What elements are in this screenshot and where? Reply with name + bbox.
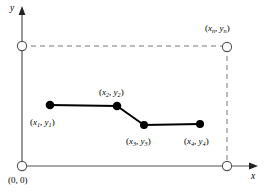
data-point-4-marker[interactable] <box>196 120 204 128</box>
data-polyline <box>50 105 200 125</box>
coordinate-plane-figure: y x (0, 0) (x1, y1) (x2, y2) (x3, y3) (x… <box>0 0 266 195</box>
comma-p1: , <box>40 117 42 127</box>
sub-x-pn: n <box>212 27 215 34</box>
open-circle-x-intercept[interactable] <box>222 161 231 170</box>
y-axis-arrowhead <box>19 6 26 15</box>
var-y-p2: y <box>114 87 118 97</box>
data-point-4-label: (x4, y4) <box>184 137 209 146</box>
comma-p4: , <box>194 136 196 146</box>
origin-label: (0, 0) <box>8 176 28 185</box>
sub-x-p1: 1 <box>37 121 40 128</box>
data-point-3-marker[interactable] <box>140 121 148 129</box>
sub-y-p1: 1 <box>49 121 52 128</box>
var-y-p1: y <box>45 117 49 127</box>
x-axis-arrowhead <box>249 163 258 170</box>
data-point-2-label: (x2, y2) <box>99 88 124 97</box>
comma-p2: , <box>109 87 111 97</box>
sub-y-pn: n <box>224 27 227 34</box>
var-y-p4: y <box>199 136 203 146</box>
y-axis-label: y <box>10 4 14 14</box>
x-axis-label: x <box>251 172 255 182</box>
data-point-1-label: (x1, y1) <box>30 118 55 127</box>
var-y-p3: y <box>141 136 145 146</box>
comma-pn: , <box>215 23 217 33</box>
data-point-1-marker[interactable] <box>46 101 55 110</box>
paren-close-p4: ) <box>206 136 209 146</box>
paren-close-p3: ) <box>148 136 151 146</box>
sub-x-p4: 4 <box>191 140 194 147</box>
paren-close-pn: ) <box>227 23 230 33</box>
sub-x-p3: 3 <box>133 140 136 147</box>
paren-close-p1: ) <box>52 117 55 127</box>
data-point-n-label: (xn, yn) <box>205 24 230 33</box>
sub-y-p3: 3 <box>145 140 148 147</box>
sub-y-p2: 2 <box>118 91 121 98</box>
sub-x-p2: 2 <box>106 91 109 98</box>
paren-close-p2: ) <box>121 87 124 97</box>
data-point-2-marker[interactable] <box>113 102 122 111</box>
data-point-3-label: (x3, y3) <box>126 137 151 146</box>
comma-p3: , <box>136 136 138 146</box>
sub-y-p4: 4 <box>203 140 206 147</box>
open-circle-origin[interactable] <box>17 161 26 170</box>
open-circle-corner-n[interactable] <box>222 42 231 51</box>
var-y-pn: y <box>220 23 224 33</box>
open-circle-y-intercept[interactable] <box>17 41 26 50</box>
